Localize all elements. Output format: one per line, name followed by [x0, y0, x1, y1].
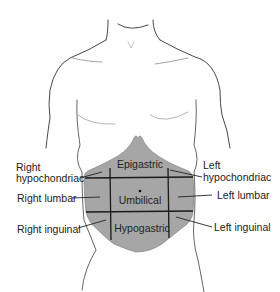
label-left-inguinal: Left inguinal [214, 221, 271, 233]
region-epigastric: Epigastric [117, 158, 163, 170]
label-left-hypochondriac-line2: hypochondriac [203, 171, 271, 183]
label-right-hypochondriac-line2: hypochondriac [16, 172, 84, 184]
pec-right [150, 112, 188, 119]
shoulder-left [46, 40, 106, 148]
torso-figure [0, 0, 280, 292]
region-umbilical: Umbilical [119, 194, 162, 206]
region-hypogastric: Hypogastric [114, 222, 169, 234]
label-left-lumbar: Left lumbar [217, 189, 270, 201]
sternum-mark [128, 42, 134, 48]
pec-left [78, 115, 115, 124]
neck-left [106, 20, 108, 40]
umbilicus-dot [139, 190, 142, 193]
clavicle-left [72, 58, 102, 62]
label-right-lumbar: Right lumbar [17, 192, 77, 204]
label-right-inguinal: Right inguinal [17, 223, 81, 235]
label-left-hypochondriac-line1: Left [203, 159, 221, 171]
neck-collar [118, 24, 148, 28]
clavicle-right [155, 58, 188, 64]
neck-right [153, 20, 160, 40]
